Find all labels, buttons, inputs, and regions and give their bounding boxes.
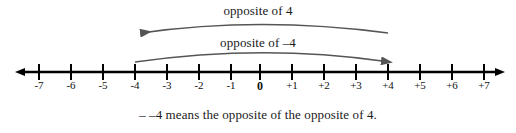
number-line-figure: -7 -6 -5 -4 -3 -2 -1 0 +1 +2 +3 +4 +5 +6… (0, 0, 516, 133)
tick-label--6: -6 (56, 79, 86, 91)
tick-label--7: -7 (24, 79, 54, 91)
arc-opposite-of-negative-4 (135, 53, 382, 62)
tick-label-plus-6: +6 (437, 79, 467, 91)
tick-label--1: -1 (216, 79, 246, 91)
tick-label-plus-5: +5 (405, 79, 435, 91)
figure-caption: – –4 means the opposite of the opposite … (0, 107, 516, 123)
tick-label-0: 0 (245, 79, 275, 94)
tick-label-plus-7: +7 (469, 79, 499, 91)
tick-label--5: -5 (88, 79, 118, 91)
tick-label-plus-1: +1 (277, 79, 307, 91)
tick-label--4: -4 (120, 79, 150, 91)
tick-label-plus-4: +4 (373, 79, 403, 91)
tick-label--3: -3 (152, 79, 182, 91)
tick-label-plus-2: +2 (309, 79, 339, 91)
arc-opposite-of-4 (141, 25, 388, 34)
annotation-label-opposite-of-negative-4: opposite of –4 (0, 35, 516, 51)
tick-label-plus-3: +3 (341, 79, 371, 91)
tick-label--2: -2 (184, 79, 214, 91)
annotation-label-opposite-of-4: opposite of 4 (0, 3, 516, 19)
